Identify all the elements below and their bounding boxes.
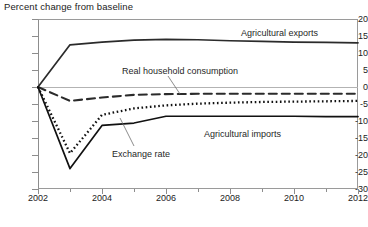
leader-line-real-household-consumption xyxy=(168,76,180,94)
series-line-real-household-consumption xyxy=(38,87,358,101)
series-line-agricultural-exports xyxy=(38,39,358,87)
annotation-label: Agricultural exports xyxy=(241,28,318,38)
annotation-label: Exchange rate xyxy=(112,149,170,159)
chart-container: Percent change from baseline 20151050-5-… xyxy=(0,0,368,227)
annotation-label: Agricultural imports xyxy=(204,129,281,139)
leader-line-exchange-rate xyxy=(120,118,134,146)
annotation-label: Real household consumption xyxy=(122,66,238,76)
series-line-agricultural-imports xyxy=(38,87,358,153)
